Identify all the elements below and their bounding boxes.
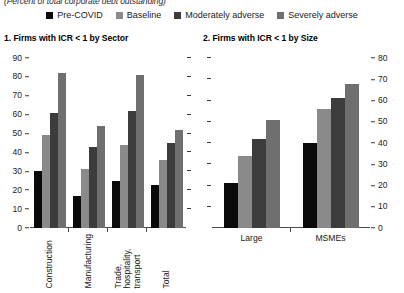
category-labels-size: LargeMSMEs: [212, 234, 370, 243]
bar-group: [147, 58, 186, 228]
y-axis-tick-label: 30: [378, 160, 390, 169]
bar[interactable]: [238, 156, 252, 228]
y-axis-tick-mark: [25, 58, 29, 59]
y-axis-minor-tick: [187, 170, 191, 171]
y-axis-tick: 20: [370, 181, 390, 190]
panel-1-title: 1. Firms with ICR < 1 by Sector: [4, 33, 128, 43]
bar[interactable]: [167, 143, 175, 228]
y-axis-tick-label: 50: [378, 118, 390, 127]
y-axis-tick: 30: [370, 160, 390, 169]
bar[interactable]: [112, 181, 120, 228]
group-separator-tick: [146, 228, 147, 232]
y-axis-minor-tick: [207, 206, 211, 207]
y-axis-tick-label: 20: [378, 181, 390, 190]
y-axis-tick-label: 70: [10, 92, 22, 101]
y-axis-tick: 80: [10, 73, 30, 82]
bar[interactable]: [151, 185, 159, 228]
category-label-text: MSMEs: [315, 234, 345, 243]
y-axis-tick-label: 60: [378, 96, 390, 105]
y-axis-tick: 30: [10, 167, 30, 176]
bar[interactable]: [159, 160, 167, 228]
y-axis-tick-mark: [371, 185, 375, 186]
y-axis-tick-mark: [25, 190, 29, 191]
bar[interactable]: [345, 84, 359, 229]
y-axis-tick: 40: [10, 148, 30, 157]
y-axis-tick-label: 0: [378, 224, 390, 233]
y-axis-tick: 0: [10, 224, 30, 233]
legend-item: Moderately adverse: [174, 11, 264, 20]
y-axis-tick-mark: [371, 206, 375, 207]
y-axis-tick: 60: [10, 110, 30, 119]
bar[interactable]: [42, 135, 50, 228]
bar[interactable]: [303, 143, 317, 228]
bar-cluster: [303, 58, 359, 228]
y-axis-tick-label: 40: [10, 148, 22, 157]
bar[interactable]: [120, 145, 128, 228]
bar-cluster: [112, 58, 144, 228]
bar[interactable]: [73, 196, 81, 228]
bar[interactable]: [136, 75, 144, 228]
y-axis-tick: 60: [370, 96, 390, 105]
y-axis-tick-mark: [25, 228, 29, 229]
y-axis-tick-mark: [25, 114, 29, 115]
plot-area-size: 01020304050607080: [212, 58, 370, 228]
y-axis-tick: 10: [10, 205, 30, 214]
bar[interactable]: [175, 130, 183, 228]
category-label-text: Trade, hospitality, transport: [114, 234, 142, 288]
category-labels-sector: ConstructionManufacturingTrade, hospital…: [30, 234, 186, 288]
bar[interactable]: [331, 98, 345, 228]
bar[interactable]: [317, 109, 331, 228]
bar-group: [108, 58, 147, 228]
bar[interactable]: [81, 169, 89, 228]
category-label-text: Large: [241, 234, 263, 243]
y-axis-tick-label: 10: [10, 205, 22, 214]
chart-legend: Pre-COVID Baseline Moderately adverse Se…: [0, 11, 404, 20]
y-axis-tick-mark: [371, 58, 375, 59]
bar-group: [212, 58, 291, 228]
y-axis-tick-label: 80: [10, 73, 22, 82]
bar[interactable]: [97, 126, 105, 228]
y-axis-tick-label: 50: [10, 129, 22, 138]
bar[interactable]: [50, 113, 58, 228]
figure-container: (Percent of total corporate debt outstan…: [0, 0, 404, 293]
y-axis-minor-tick: [207, 185, 211, 186]
y-axis-tick-mark: [25, 171, 29, 172]
y-axis-minor-tick: [207, 100, 211, 101]
bar[interactable]: [58, 73, 66, 228]
y-axis-minor-tick: [207, 142, 211, 143]
category-label-text: Manufacturing: [84, 234, 93, 288]
category-label: Construction: [30, 234, 69, 288]
units-subtitle: (Percent of total corporate debt outstan…: [4, 0, 166, 6]
y-axis-tick: 20: [10, 186, 30, 195]
category-label-text: Total: [162, 234, 171, 288]
y-axis-tick-mark: [371, 121, 375, 122]
bar[interactable]: [266, 120, 280, 228]
y-axis-tick-label: 20: [10, 186, 22, 195]
y-axis-tick-label: 10: [378, 203, 390, 212]
y-axis-minor-tick: [187, 151, 191, 152]
bar-group: [30, 58, 69, 228]
bar[interactable]: [34, 171, 42, 228]
category-label: Total: [147, 234, 186, 288]
legend-item: Pre-COVID: [46, 11, 103, 20]
y-axis-tick: 0: [370, 224, 390, 233]
y-axis-minor-tick: [187, 95, 191, 96]
y-axis-tick-mark: [25, 152, 29, 153]
y-axis-minor-tick: [187, 114, 191, 115]
bar-cluster: [151, 58, 183, 228]
y-axis-tick-label: 0: [10, 224, 22, 233]
bar[interactable]: [128, 111, 136, 228]
y-axis-tick-mark: [25, 76, 29, 77]
panel-firms-icr-by-sector: 0102030405060708090 ConstructionManufact…: [0, 48, 196, 293]
y-axis-minor-tick: [207, 57, 211, 58]
bar[interactable]: [252, 139, 266, 228]
y-axis-tick-label: 70: [378, 75, 390, 84]
bar[interactable]: [224, 183, 238, 228]
bar[interactable]: [89, 147, 97, 228]
y-axis-tick-mark: [371, 143, 375, 144]
panel-2-title: 2. Firms with ICR < 1 by Size: [203, 33, 318, 43]
y-axis-tick-label: 30: [10, 167, 22, 176]
y-axis-tick: 80: [370, 54, 390, 63]
bar-groups-sector: [30, 58, 186, 228]
y-axis-tick: 10: [370, 203, 390, 212]
